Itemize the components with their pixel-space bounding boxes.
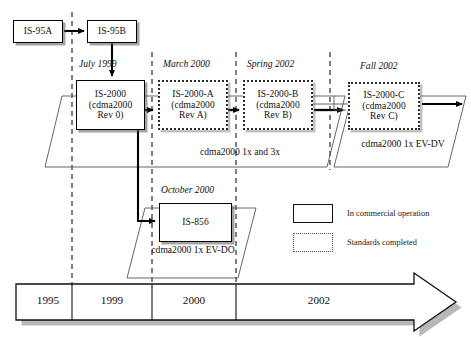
node-is2000c-line-2: Rev C) (370, 111, 398, 122)
node-is2000-line-1: (cdma2000 (89, 100, 133, 111)
node-is2000b[interactable]: IS-2000-B (cdma2000 Rev B) (243, 80, 313, 130)
date-caption-july-1999: July 1999 (79, 58, 117, 69)
diagram-vector-layer (0, 0, 471, 337)
node-is856-line-0: IS-856 (182, 217, 208, 228)
group-label-ev-do: cdma2000 1x EV-DO (148, 244, 238, 255)
node-is95a[interactable]: IS-95A (13, 20, 63, 43)
node-is2000c-line-1: (cdma2000 (362, 101, 406, 112)
node-is2000[interactable]: IS-2000 (cdma2000 Rev 0) (76, 80, 145, 130)
node-is2000-line-2: Rev 0) (97, 110, 123, 121)
group-label-1x-3x: cdma2000 1x and 3x (160, 146, 320, 157)
group-label-ev-dv: cdma2000 1x EV-DV (358, 138, 448, 149)
node-is856[interactable]: IS-856 (159, 203, 232, 242)
group-label-ev-do-line-1: 1x EV-DO (194, 244, 235, 255)
date-caption-spring-2002: Spring 2002 (247, 58, 294, 69)
node-is2000a-line-2: Rev A) (179, 110, 207, 121)
node-is2000b-line-1: (cdma2000 (256, 100, 300, 111)
node-is95b[interactable]: IS-95B (87, 20, 137, 43)
node-is2000c-line-0: IS-2000-C (363, 90, 404, 101)
node-is95a-line-0: IS-95A (24, 26, 53, 37)
date-caption-fall-2002: Fall 2002 (360, 60, 398, 71)
date-caption-october-2000: October 2000 (161, 184, 214, 195)
node-is2000b-line-0: IS-2000-B (257, 89, 298, 100)
timeline-year-2000: 2000 (170, 294, 218, 306)
diagram-canvas: IS-95A IS-95B IS-2000 (cdma2000 Rev 0) I… (0, 0, 471, 337)
node-is2000b-line-2: Rev B) (264, 110, 292, 121)
node-is2000a-line-1: (cdma2000 (171, 100, 215, 111)
node-is2000a-line-0: IS-2000-A (172, 89, 214, 100)
group-label-ev-dv-line-0: cdma2000 (361, 138, 401, 149)
timeline-arrow (16, 273, 462, 337)
timeline-year-1995: 1995 (24, 294, 72, 306)
group-label-ev-do-line-0: cdma2000 (151, 244, 191, 255)
group-label-1x-3x-line-0: cdma2000 1x and 3x (200, 146, 280, 157)
node-is95b-line-0: IS-95B (98, 26, 126, 37)
node-is2000a[interactable]: IS-2000-A (cdma2000 Rev A) (158, 80, 228, 130)
node-is2000-line-0: IS-2000 (95, 89, 126, 100)
date-caption-march-2000: March 2000 (163, 58, 210, 69)
node-is2000c[interactable]: IS-2000-C (cdma2000 Rev C) (348, 82, 420, 130)
group-label-ev-dv-line-1: 1x EV-DV (404, 138, 445, 149)
timeline-year-2002: 2002 (295, 294, 343, 306)
timeline-year-1999: 1999 (88, 294, 136, 306)
